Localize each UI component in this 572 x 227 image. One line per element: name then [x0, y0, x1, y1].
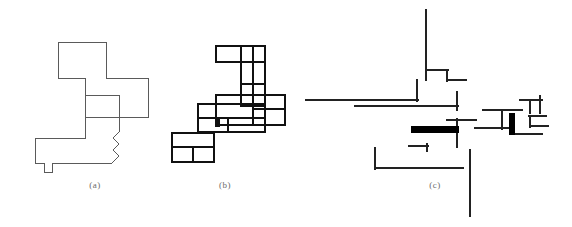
- caption-panel-c: (c): [370, 180, 500, 190]
- shape-a-outline: [35, 42, 148, 172]
- panel-c-drawing: [300, 0, 572, 227]
- panel-b: [160, 0, 300, 227]
- figure-root: (a) (b) (c): [0, 0, 572, 227]
- solid-bar-c-1: [411, 126, 459, 133]
- caption-panel-b: (b): [160, 180, 290, 190]
- block-b-14: [193, 147, 214, 162]
- block-b-3: [241, 46, 253, 106]
- bar-b-1: [215, 118, 220, 127]
- panel-c: [300, 0, 572, 227]
- panel-b-drawing: [160, 0, 300, 227]
- solid-bar-c-2: [509, 113, 515, 135]
